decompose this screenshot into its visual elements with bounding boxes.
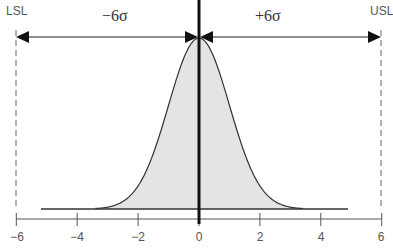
- tick-label-minus-4: −4: [70, 230, 84, 244]
- tick-label-minus-2: −2: [131, 230, 145, 244]
- tick-label-0: 0: [196, 230, 203, 244]
- lsl-label: LSL: [6, 4, 27, 18]
- tick-label-minus-6: −6: [10, 230, 24, 244]
- tick-label-6: 6: [378, 230, 385, 244]
- plus-six-sigma-label: +6σ: [255, 7, 281, 25]
- normal-distribution-chart: [0, 0, 393, 251]
- tick-label-2: 2: [257, 230, 264, 244]
- tick-label-4: 4: [318, 230, 325, 244]
- arrowhead-right-icon: [368, 31, 381, 43]
- arrowhead-left-icon: [16, 31, 29, 43]
- minus-six-sigma-label: −6σ: [102, 7, 128, 25]
- usl-label: USL: [370, 4, 393, 18]
